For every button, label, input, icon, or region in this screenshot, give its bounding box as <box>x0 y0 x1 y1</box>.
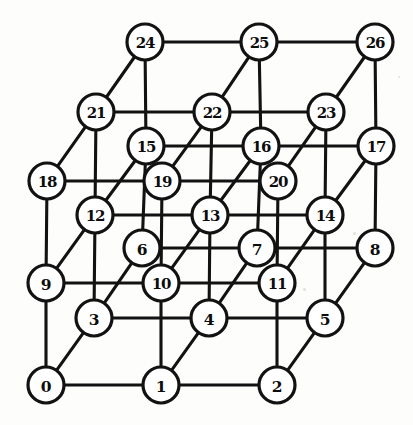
graph-node-21[interactable]: 21 <box>78 94 114 130</box>
node-label: 24 <box>136 34 155 52</box>
graph-edge <box>287 332 315 372</box>
node-label: 20 <box>269 173 288 191</box>
node-label: 13 <box>201 207 220 225</box>
node-label: 8 <box>370 240 380 259</box>
graph-node-16[interactable]: 16 <box>243 128 279 164</box>
grid-graph-figure: 2425261516176782122231213143451819209101… <box>0 0 413 425</box>
graph-node-9[interactable]: 9 <box>28 265 64 301</box>
nodes-group: 2425261516176782122231213143451819209101… <box>28 24 394 403</box>
graph-edge <box>46 198 47 266</box>
graph-node-0[interactable]: 0 <box>28 367 64 403</box>
graph-node-14[interactable]: 14 <box>307 197 343 233</box>
graph-node-26[interactable]: 26 <box>357 24 393 60</box>
node-label: 11 <box>268 275 287 293</box>
node-label: 19 <box>153 173 172 191</box>
graph-edge <box>335 262 365 305</box>
graph-edge <box>161 198 162 266</box>
graph-node-20[interactable]: 20 <box>260 163 296 199</box>
graph-node-22[interactable]: 22 <box>194 94 230 130</box>
node-label: 25 <box>250 34 269 52</box>
graph-node-8[interactable]: 8 <box>357 230 393 266</box>
graph-edge <box>375 163 376 231</box>
node-label: 17 <box>367 138 386 156</box>
graph-node-15[interactable]: 15 <box>128 128 164 164</box>
node-label: 6 <box>137 240 147 259</box>
graph-edge <box>56 229 85 270</box>
node-label: 16 <box>252 138 271 156</box>
graph-edge <box>145 59 146 129</box>
graph-node-19[interactable]: 19 <box>144 163 180 199</box>
node-label: 4 <box>204 310 215 329</box>
graph-edge <box>95 129 96 198</box>
graph-edge <box>221 56 249 98</box>
graph-edge <box>57 126 87 168</box>
graph-edge <box>210 129 211 198</box>
node-label: 3 <box>89 310 99 329</box>
graph-edge <box>259 59 260 129</box>
graph-node-5[interactable]: 5 <box>307 300 343 336</box>
graph-node-1[interactable]: 1 <box>143 367 179 403</box>
scan-speck <box>353 232 356 235</box>
graph-node-10[interactable]: 10 <box>143 265 179 301</box>
graph-edge <box>375 59 376 129</box>
graph-edge <box>94 232 95 301</box>
node-label: 22 <box>203 104 222 122</box>
graph-edge <box>258 163 261 231</box>
scan-speck <box>398 76 400 78</box>
graph-node-23[interactable]: 23 <box>308 94 344 130</box>
graph-edge <box>325 129 326 198</box>
graph-node-4[interactable]: 4 <box>191 300 227 336</box>
graph-node-3[interactable]: 3 <box>76 300 112 336</box>
node-label: 26 <box>366 34 385 52</box>
node-label: 5 <box>320 310 330 329</box>
node-label: 14 <box>316 207 335 225</box>
graph-edge <box>277 198 278 266</box>
node-label: 12 <box>86 207 105 225</box>
graph-node-12[interactable]: 12 <box>77 197 113 233</box>
graph-edge <box>106 56 136 98</box>
graph-node-25[interactable]: 25 <box>241 24 277 60</box>
node-label: 9 <box>41 275 51 294</box>
graph-node-18[interactable]: 18 <box>29 163 65 199</box>
node-label: 2 <box>272 377 282 396</box>
node-label: 15 <box>137 138 156 156</box>
graph-node-7[interactable]: 7 <box>239 230 275 266</box>
graph-edge <box>171 332 199 372</box>
graph-node-2[interactable]: 2 <box>259 367 295 403</box>
node-label: 21 <box>87 104 106 122</box>
graph-node-6[interactable]: 6 <box>124 230 160 266</box>
node-label: 23 <box>317 104 336 122</box>
graph-node-24[interactable]: 24 <box>127 24 163 60</box>
node-label: 0 <box>41 377 52 396</box>
graph-edge <box>56 332 84 372</box>
graph-canvas: 2425261516176782122231213143451819209101… <box>0 0 413 425</box>
graph-edge <box>209 232 210 301</box>
graph-node-13[interactable]: 13 <box>192 197 228 233</box>
node-label: 18 <box>38 173 57 191</box>
graph-edge <box>335 160 366 202</box>
node-label: 7 <box>252 240 262 259</box>
graph-node-17[interactable]: 17 <box>358 128 394 164</box>
graph-edge <box>336 56 366 98</box>
node-label: 10 <box>152 275 171 293</box>
graph-node-11[interactable]: 11 <box>259 265 295 301</box>
node-label: 1 <box>156 377 166 396</box>
scan-speck <box>303 288 306 291</box>
